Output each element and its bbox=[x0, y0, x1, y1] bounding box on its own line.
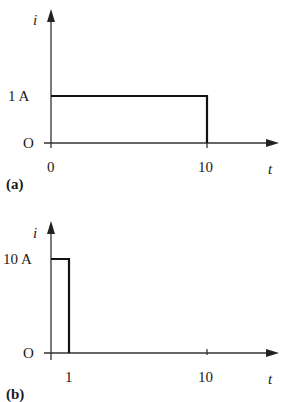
x-tick-label-10-b: 10 bbox=[198, 370, 213, 385]
pulse-a bbox=[51, 96, 207, 143]
x-tick-label-1-b: 1 bbox=[65, 370, 73, 385]
caption-a: (a) bbox=[6, 177, 24, 192]
figure-a-axes bbox=[44, 16, 271, 148]
origin-label-a: O bbox=[23, 136, 34, 151]
figure-b-axes bbox=[44, 228, 271, 360]
x-tick-label-0-a: 0 bbox=[47, 160, 55, 175]
x-axis-label-a: t bbox=[268, 162, 272, 177]
x-axis-arrow-a-icon bbox=[266, 139, 279, 147]
y-axis-arrow-b-icon bbox=[47, 221, 55, 234]
x-tick-label-10-a: 10 bbox=[198, 160, 213, 175]
pulse-b bbox=[51, 259, 69, 353]
x-axis-arrow-b-icon bbox=[266, 349, 279, 357]
level-label-a: 1 A bbox=[8, 89, 29, 104]
y-axis-arrow-a-icon bbox=[47, 9, 55, 22]
y-axis-label-b: i bbox=[33, 226, 37, 241]
y-axis-label-a: i bbox=[33, 13, 37, 28]
origin-label-b: O bbox=[23, 346, 34, 361]
level-label-b: 10 A bbox=[3, 252, 32, 267]
caption-b: (b) bbox=[6, 387, 24, 402]
x-axis-label-b: t bbox=[268, 372, 272, 387]
